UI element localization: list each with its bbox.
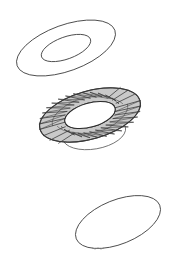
top-annulus-inner-ellipse: [38, 29, 94, 67]
figure-container: [0, 0, 178, 265]
top-annulus-outer-ellipse: [9, 9, 122, 88]
top-annulus: [9, 9, 122, 88]
bottom-ellipse-outline: [68, 185, 168, 260]
annulus-figure-svg: [0, 0, 178, 265]
triangulated-mesh-annulus: [33, 77, 147, 154]
bottom-ellipse: [68, 185, 168, 260]
